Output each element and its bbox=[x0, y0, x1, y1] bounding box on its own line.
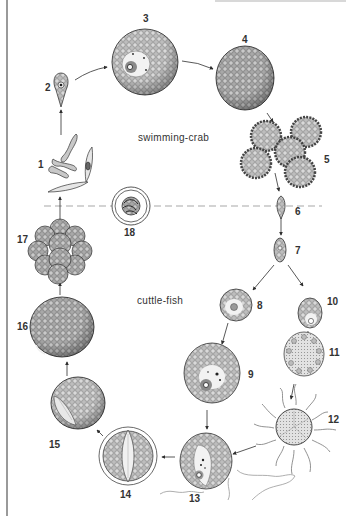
stage-17-shape bbox=[28, 219, 92, 284]
stage-label-1: 1 bbox=[38, 160, 44, 170]
stage-11-shape bbox=[284, 332, 324, 376]
stage-7-shape bbox=[274, 238, 286, 262]
stage-label-3: 3 bbox=[143, 14, 149, 24]
stage-label-9: 9 bbox=[248, 370, 254, 380]
stage-13-shape bbox=[180, 433, 232, 489]
stage-label-16: 16 bbox=[17, 322, 28, 332]
stage-5-shape bbox=[241, 117, 321, 187]
stage-label-13: 13 bbox=[189, 494, 200, 504]
stage-15-shape bbox=[51, 377, 105, 429]
stage-label-12: 12 bbox=[328, 415, 339, 425]
stage-label-8: 8 bbox=[257, 301, 263, 311]
stage-label-4: 4 bbox=[242, 35, 248, 45]
stage-label-7: 7 bbox=[295, 246, 301, 256]
stage-2-shape bbox=[54, 73, 68, 107]
stage-8-shape bbox=[220, 289, 252, 321]
stage-14-shape bbox=[99, 427, 157, 485]
host-label-cuttle-fish: cuttle-fish bbox=[137, 296, 183, 306]
stage-label-6: 6 bbox=[295, 207, 301, 217]
stage-1-shape bbox=[48, 134, 93, 192]
stage-label-17: 17 bbox=[17, 235, 28, 245]
stage-label-15: 15 bbox=[49, 440, 60, 450]
stage-label-2: 2 bbox=[45, 83, 51, 93]
stage-12-shape bbox=[254, 384, 336, 474]
life-cycle-diagram: swimming-crab cuttle-fish 1 2 3 4 5 6 7 … bbox=[0, 0, 346, 516]
stage-label-14: 14 bbox=[120, 490, 131, 500]
stage-4-shape bbox=[216, 46, 274, 110]
stage-9-shape bbox=[184, 343, 240, 403]
stage-3-shape bbox=[112, 29, 178, 95]
stage-label-5: 5 bbox=[324, 155, 330, 165]
stage-label-18: 18 bbox=[124, 228, 135, 238]
stage-label-11: 11 bbox=[329, 348, 340, 358]
stage-10-shape bbox=[298, 298, 322, 328]
stage-6-shape bbox=[277, 196, 285, 219]
stage-16-shape bbox=[30, 297, 94, 357]
stage-18-shape bbox=[112, 187, 150, 225]
stage-label-10: 10 bbox=[327, 297, 338, 307]
host-label-swimming-crab: swimming-crab bbox=[138, 133, 209, 143]
